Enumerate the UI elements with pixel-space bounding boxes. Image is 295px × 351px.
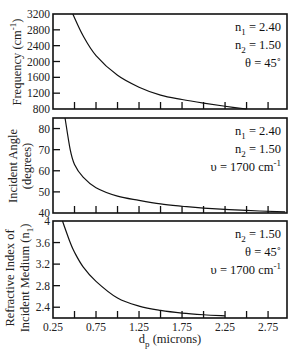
- x-tick-label: 0.75: [86, 321, 106, 333]
- y-tick-label: 3.6: [36, 237, 51, 249]
- annotation-line: n2 = 1.50: [235, 142, 281, 159]
- annotation-line: υ = 1700 cm-1: [211, 158, 281, 174]
- y-tick-label: 1600: [27, 71, 50, 83]
- annotation-line: υ = 1700 cm-1: [211, 261, 281, 277]
- y-axis-label-angle-2: (degrees): [20, 143, 34, 190]
- y-axis-label-angle-1: Incident Angle: [6, 129, 20, 203]
- data-curve: [73, 14, 247, 109]
- y-tick-label: 70: [39, 144, 51, 156]
- x-tick-label: 2.75: [258, 321, 278, 333]
- y-tick-label: 2800: [27, 24, 50, 36]
- y-tick-label: 2000: [27, 56, 50, 68]
- y-axis-label-frequency: Frequency (cm-1): [8, 19, 24, 106]
- y-axis-label-index-1: Refractive Index of: [3, 229, 17, 327]
- y-tick-label: 2400: [27, 40, 50, 52]
- y-tick-label: 60: [39, 165, 51, 177]
- y-tick-label: 2.4: [36, 301, 51, 313]
- annotation-line: θ = 45˚: [245, 245, 281, 259]
- data-curve: [62, 221, 225, 316]
- annotation-line: n1 = 2.40: [235, 20, 281, 37]
- y-tick-label: 800: [33, 103, 51, 115]
- y-tick-label: 1200: [27, 87, 50, 99]
- x-tick-label: 0.25: [43, 321, 63, 333]
- parameter-annotations: n1 = 2.40n2 = 1.50θ = 45˚n1 = 2.40n2 = 1…: [211, 20, 281, 277]
- chart-figure: 80012001600200024002800320040506070802.4…: [0, 0, 295, 351]
- annotation-line: n2 = 1.50: [235, 38, 281, 55]
- y-axis-label-index-2: Incident Medium (n1): [18, 224, 35, 333]
- y-tick-label: 80: [39, 123, 51, 135]
- y-tick-label: 2.8: [36, 280, 51, 292]
- y-tick-label: 4: [44, 215, 50, 227]
- y-tick-label: 50: [39, 186, 51, 198]
- y-tick-label: 3.2: [36, 258, 51, 270]
- annotation-line: n1 = 2.40: [235, 124, 281, 141]
- x-tick-label: 2.25: [215, 321, 235, 333]
- y-tick-label: 3200: [27, 8, 50, 20]
- annotation-line: θ = 45˚: [245, 56, 281, 70]
- x-axis-label: dp (microns): [139, 332, 201, 349]
- annotation-line: n2 = 1.50: [235, 227, 281, 244]
